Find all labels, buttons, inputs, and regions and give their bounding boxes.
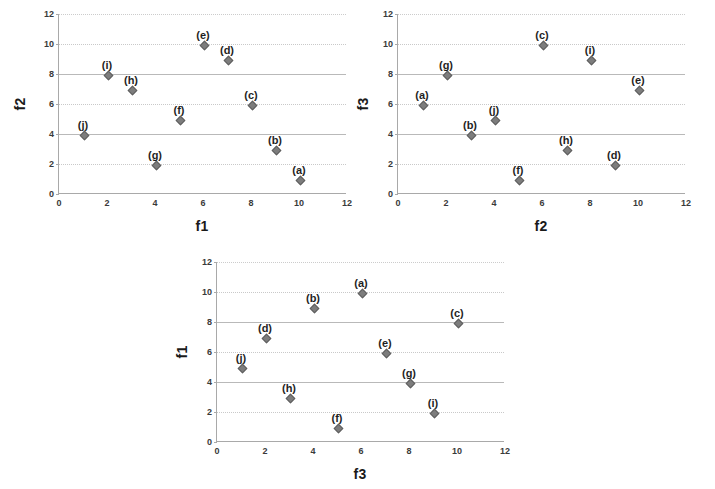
- x-tick-label: 8: [406, 447, 411, 456]
- plot-area-f2-vs-f1: 024681012024681012(a)(b)(c)(d)(e)(f)(g)(…: [58, 14, 346, 194]
- gridline: [217, 352, 504, 353]
- data-point-label: (e): [196, 30, 209, 41]
- y-tick-label: 4: [49, 130, 54, 139]
- y-tick-mark: [214, 382, 217, 383]
- diamond-marker-icon: [295, 175, 305, 185]
- axis-label-f1: f1: [196, 218, 209, 234]
- diamond-marker-icon: [514, 175, 524, 185]
- chart-f1-vs-f3: 024681012024681012(a)(b)(c)(d)(e)(f)(g)(…: [170, 248, 550, 489]
- diamond-marker-icon: [333, 423, 343, 433]
- y-tick-label: 4: [207, 378, 212, 387]
- x-tick-label: 8: [587, 199, 592, 208]
- gridline: [59, 74, 346, 75]
- gridline: [398, 104, 685, 105]
- diamond-marker-icon: [127, 85, 137, 95]
- data-point-label: (h): [559, 135, 573, 146]
- axis-label-f1: f1: [174, 346, 190, 359]
- y-tick-label: 10: [202, 288, 212, 297]
- y-tick-label: 12: [383, 10, 393, 19]
- x-tick-label: 0: [395, 199, 400, 208]
- data-point-label: (d): [607, 150, 621, 161]
- data-point-label: (d): [258, 323, 272, 334]
- data-point-label: (j): [236, 353, 246, 364]
- data-point-label: (a): [354, 278, 367, 289]
- diamond-marker-icon: [247, 100, 257, 110]
- y-tick-label: 6: [207, 348, 212, 357]
- y-tick-mark: [395, 74, 398, 75]
- data-point-label: (g): [402, 368, 416, 379]
- diamond-marker-icon: [418, 100, 428, 110]
- axis-label-f2: f2: [12, 98, 28, 111]
- axis-label-f2: f2: [535, 218, 548, 234]
- data-point-label: (d): [220, 45, 234, 56]
- gridline: [398, 14, 685, 15]
- data-point-label: (e): [378, 338, 391, 349]
- data-point-label: (g): [439, 60, 453, 71]
- y-tick-label: 10: [44, 40, 54, 49]
- y-tick-mark: [395, 44, 398, 45]
- axis-label-f3: f3: [355, 98, 371, 111]
- data-point-label: (a): [415, 90, 428, 101]
- data-point-label: (f): [332, 413, 343, 424]
- y-tick-mark: [56, 164, 59, 165]
- y-tick-mark: [214, 322, 217, 323]
- x-tick-label: 4: [152, 199, 157, 208]
- y-tick-mark: [214, 352, 217, 353]
- y-tick-label: 12: [44, 10, 54, 19]
- data-point-label: (c): [535, 30, 548, 41]
- data-point-label: (j): [489, 105, 499, 116]
- y-tick-mark: [395, 104, 398, 105]
- diamond-marker-icon: [429, 408, 439, 418]
- chart-f3-vs-f2: 024681012024681012(a)(b)(c)(d)(e)(f)(g)(…: [355, 0, 715, 240]
- y-tick-mark: [56, 194, 59, 195]
- x-tick-label: 10: [294, 199, 304, 208]
- diamond-marker-icon: [466, 130, 476, 140]
- chart-f2-vs-f1: 024681012024681012(a)(b)(c)(d)(e)(f)(g)(…: [0, 0, 360, 240]
- y-tick-label: 8: [207, 318, 212, 327]
- data-point-label: (i): [102, 60, 112, 71]
- diamond-marker-icon: [405, 378, 415, 388]
- y-tick-mark: [395, 194, 398, 195]
- y-tick-label: 8: [388, 70, 393, 79]
- x-tick-label: 6: [358, 447, 363, 456]
- diamond-marker-icon: [453, 318, 463, 328]
- x-tick-label: 2: [262, 447, 267, 456]
- diamond-marker-icon: [562, 145, 572, 155]
- data-point-label: (j): [78, 120, 88, 131]
- diamond-marker-icon: [634, 85, 644, 95]
- diamond-marker-icon: [586, 55, 596, 65]
- y-tick-label: 6: [388, 100, 393, 109]
- y-tick-mark: [395, 164, 398, 165]
- x-tick-label: 0: [214, 447, 219, 456]
- diamond-marker-icon: [271, 145, 281, 155]
- gridline: [398, 134, 685, 135]
- diamond-marker-icon: [309, 303, 319, 313]
- diamond-marker-icon: [151, 160, 161, 170]
- y-tick-mark: [214, 292, 217, 293]
- gridline: [398, 164, 685, 165]
- y-tick-label: 6: [49, 100, 54, 109]
- x-tick-label: 12: [342, 199, 352, 208]
- gridline: [59, 104, 346, 105]
- plot-area-f3-vs-f2: 024681012024681012(a)(b)(c)(d)(e)(f)(g)(…: [397, 14, 685, 194]
- data-point-label: (f): [513, 165, 524, 176]
- diamond-marker-icon: [199, 40, 209, 50]
- data-point-label: (b): [268, 135, 282, 146]
- diamond-marker-icon: [357, 288, 367, 298]
- x-tick-label: 4: [310, 447, 315, 456]
- y-tick-mark: [56, 14, 59, 15]
- x-tick-label: 4: [491, 199, 496, 208]
- y-tick-label: 8: [49, 70, 54, 79]
- diamond-marker-icon: [381, 348, 391, 358]
- x-tick-label: 2: [104, 199, 109, 208]
- x-tick-label: 10: [633, 199, 643, 208]
- y-tick-label: 2: [388, 160, 393, 169]
- diamond-marker-icon: [237, 363, 247, 373]
- diamond-marker-icon: [223, 55, 233, 65]
- diamond-marker-icon: [442, 70, 452, 80]
- x-tick-label: 6: [539, 199, 544, 208]
- diamond-marker-icon: [490, 115, 500, 125]
- diamond-marker-icon: [538, 40, 548, 50]
- y-tick-mark: [395, 134, 398, 135]
- diamond-marker-icon: [103, 70, 113, 80]
